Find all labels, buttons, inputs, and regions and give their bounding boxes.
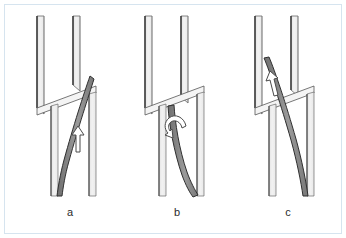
panel-b-caption: b [174,206,180,218]
panel-c-left-plank-upper [255,16,262,114]
panel-b-right-plank-upper [181,16,188,103]
panel-b-left-plank-upper [145,16,152,114]
panel-c-right-plank-lower [307,92,314,196]
panel-c-right-plank-upper [291,16,298,96]
panel-a-right-plank-upper [73,16,80,91]
panel-a-right-plank-lower [89,92,96,196]
panel-a-left-plank-upper [37,16,44,114]
panel-c: c [255,16,314,218]
panel-b: b [145,16,204,218]
panel-c-caption: c [285,206,291,218]
panel-a: a [37,16,96,218]
figure-root: a [0,0,346,238]
panel-b-right-plank-lower [197,92,204,196]
diagram-canvas: a [0,0,346,238]
panel-c-left-plank-lower [269,104,276,196]
panel-a-left-plank-lower [51,104,58,196]
panel-a-caption: a [67,206,74,218]
panel-b-left-plank-lower [159,104,166,196]
